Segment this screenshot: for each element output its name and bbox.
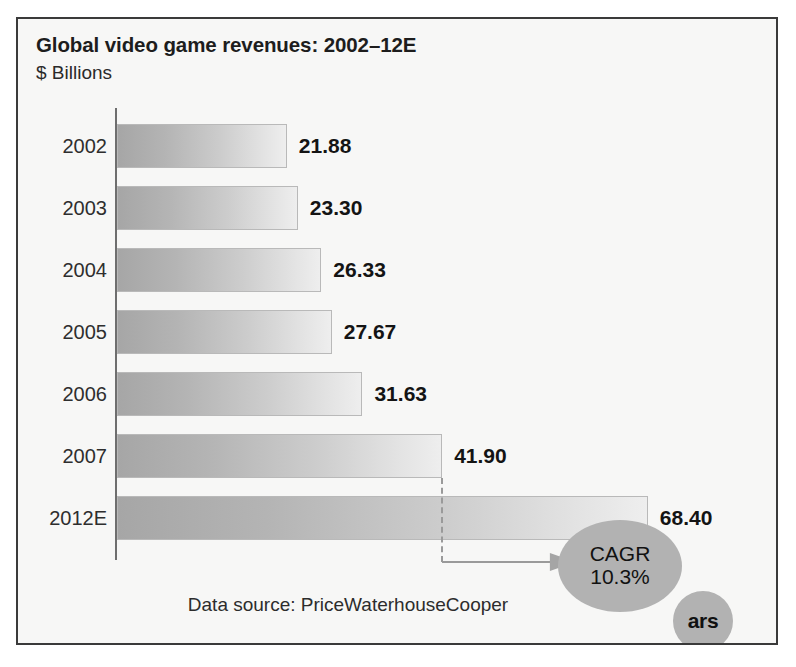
chart-figure: Global video game revenues: 2002–12E $ B… (16, 17, 778, 645)
bar-category-label: 2003 (16, 186, 107, 230)
bar-2007 (117, 434, 442, 478)
bar-2002 (117, 124, 287, 168)
bar-value-label: 23.30 (310, 186, 363, 230)
bar-value-label: 31.63 (374, 372, 427, 416)
bar-2012E (117, 496, 648, 540)
bar-category-label: 2005 (16, 310, 107, 354)
bar-category-label: 2004 (16, 248, 107, 292)
bar-chart-plot-area: 200221.88200323.30200426.33200527.672006… (18, 19, 778, 645)
bar-2004 (117, 248, 321, 292)
bar-value-label: 41.90 (454, 434, 507, 478)
ars-logo: ars (673, 591, 733, 645)
bar-category-label: 2006 (16, 372, 107, 416)
bar-category-label: 2012E (16, 496, 107, 540)
bar-2006 (117, 372, 362, 416)
bar-2003 (117, 186, 298, 230)
bar-value-label: 68.40 (660, 496, 713, 540)
cagr-value: 10.3% (590, 566, 650, 589)
data-source-caption: Data source: PriceWaterhouseCooper (18, 594, 678, 616)
bar-value-label: 21.88 (299, 124, 352, 168)
ars-logo-text: ars (688, 609, 719, 633)
cagr-arrow-icon (442, 550, 576, 574)
cagr-label: CAGR (590, 543, 651, 566)
bar-category-label: 2007 (16, 434, 107, 478)
bar-category-label: 2002 (16, 124, 107, 168)
bar-2005 (117, 310, 332, 354)
bar-value-label: 26.33 (333, 248, 386, 292)
bar-value-label: 27.67 (344, 310, 397, 354)
